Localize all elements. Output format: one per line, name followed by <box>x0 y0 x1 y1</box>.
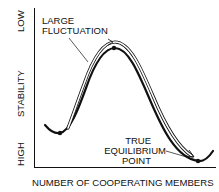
large-fluctuation-label-line2: FLUCTUATION <box>42 26 108 36</box>
x-axis-label: NUMBER OF COOPERATING MEMBERS <box>32 178 214 188</box>
peak-dot <box>112 46 116 50</box>
equilibrium-dot <box>196 159 200 163</box>
large-fluctuation-leader <box>69 38 88 62</box>
y-axis-label: STABILITY <box>16 70 26 117</box>
stability-diagram: LOW STABILITY HIGH NUMBER OF COOPERATING… <box>0 0 219 192</box>
local-minimum-dot <box>58 131 62 135</box>
y-axis-top-label: LOW <box>16 10 26 32</box>
true-equilibrium-label-line3: POINT <box>122 156 151 166</box>
diagram-canvas <box>0 0 219 192</box>
y-axis-bottom-label: HIGH <box>16 142 26 166</box>
